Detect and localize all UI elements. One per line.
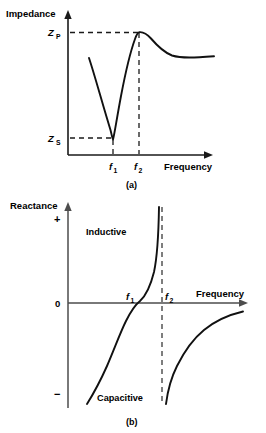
chart-b-capacitive-region-label: Capacitive xyxy=(97,393,143,403)
chart-a-zp-base: Z xyxy=(47,27,55,38)
chart-b-ylabel: Reactance xyxy=(10,200,58,211)
chart-a-f1-label: f 1 xyxy=(109,161,118,174)
chart-a-f1-subscript: 1 xyxy=(114,167,118,174)
chart-b-y-axis xyxy=(64,202,71,408)
chart-b-minus-label: − xyxy=(54,388,60,400)
chart-a-x-axis-arrowhead xyxy=(204,151,213,158)
chart-b-f1-label: f 1 xyxy=(126,291,135,304)
impedance-reactance-figure: Impedance Frequency Z P Z S f 1 f 2 xyxy=(0,0,266,433)
chart-b-f2-base: f xyxy=(165,291,169,302)
chart-a-f1-base: f xyxy=(109,161,113,172)
chart-b-y-axis-arrowhead xyxy=(64,202,71,211)
chart-a-f2-subscript: 2 xyxy=(139,167,143,174)
chart-a-zs-label: Z S xyxy=(47,133,61,146)
chart-b-plus-label: + xyxy=(54,213,60,225)
chart-a-x-axis xyxy=(68,151,213,158)
chart-b-x-axis-arrowhead xyxy=(239,299,248,306)
chart-b-inductive-region-label: Inductive xyxy=(86,227,126,237)
chart-a-ylabel: Impedance xyxy=(6,8,56,19)
chart-b-capacitive-branch xyxy=(166,312,243,405)
chart-b-f2-subscript: 2 xyxy=(170,297,174,304)
chart-b-f2-label: f 2 xyxy=(165,291,174,304)
chart-b: Reactance + 0 − Frequency Inductive Capa… xyxy=(10,200,248,427)
chart-a-zs-base: Z xyxy=(47,133,55,144)
chart-a-f2-label: f 2 xyxy=(134,161,143,174)
chart-a-caption: (a) xyxy=(126,180,137,190)
chart-a-impedance-curve xyxy=(89,32,214,139)
chart-a-y-axis-arrowhead xyxy=(64,10,71,19)
chart-b-f1-base: f xyxy=(126,291,130,302)
chart-a-y-axis xyxy=(64,10,71,155)
figure-root: Impedance Frequency Z P Z S f 1 f 2 xyxy=(0,0,266,433)
chart-b-caption: (b) xyxy=(126,417,138,427)
chart-b-zero-label: 0 xyxy=(55,298,60,309)
chart-a: Impedance Frequency Z P Z S f 1 f 2 xyxy=(6,8,214,190)
chart-b-f1-subscript: 1 xyxy=(131,297,135,304)
chart-b-x-axis xyxy=(68,299,248,306)
chart-a-f2-base: f xyxy=(134,161,138,172)
chart-a-zp-label: Z P xyxy=(47,27,61,40)
chart-a-zp-subscript: P xyxy=(56,33,61,40)
chart-a-zs-subscript: S xyxy=(56,139,61,146)
chart-a-xlabel: Frequency xyxy=(164,161,213,172)
chart-b-xlabel: Frequency xyxy=(196,288,245,299)
